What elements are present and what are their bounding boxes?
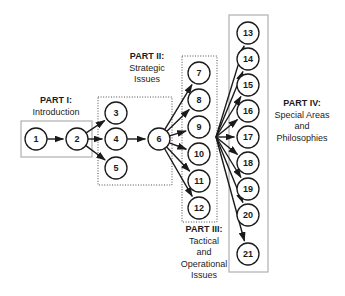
node-label-20: 20: [243, 210, 253, 220]
group-line-part4-1: and: [260, 121, 344, 133]
group-label-part4: PART IV: Special Areas and Philosophies: [260, 98, 344, 144]
node-label-4: 4: [113, 134, 118, 144]
node-label-11: 11: [194, 176, 204, 186]
node-label-9: 9: [196, 122, 201, 132]
node-5[interactable]: 5: [105, 157, 127, 179]
group-label-part1: PART I: Introduction: [14, 95, 98, 118]
group-line-part2-1: Issues: [108, 74, 186, 86]
node-label-5: 5: [113, 163, 118, 173]
node-6[interactable]: 6: [148, 128, 170, 150]
node-label-2: 2: [74, 134, 79, 144]
edge-2-to-3: [86, 120, 105, 132]
node-label-18: 18: [243, 158, 253, 168]
group-line-part2-0: Strategic: [108, 63, 186, 75]
node-9[interactable]: 9: [188, 116, 210, 138]
node-label-12: 12: [194, 203, 204, 213]
group-line-part4-2: Philosophies: [260, 133, 344, 145]
node-10[interactable]: 10: [188, 143, 210, 165]
node-20[interactable]: 20: [237, 204, 259, 226]
node-2[interactable]: 2: [66, 128, 88, 150]
node-14[interactable]: 14: [237, 48, 259, 70]
node-7[interactable]: 7: [188, 62, 210, 84]
group-header-part1: PART I:: [14, 95, 98, 107]
node-label-14: 14: [243, 54, 253, 64]
node-19[interactable]: 19: [237, 178, 259, 200]
node-16[interactable]: 16: [237, 100, 259, 122]
node-4[interactable]: 4: [105, 128, 127, 150]
edge-6-to-7: [165, 85, 192, 130]
node-label-19: 19: [243, 184, 253, 194]
node-label-3: 3: [113, 108, 118, 118]
node-label-15: 15: [243, 80, 253, 90]
group-header-part4: PART IV:: [260, 98, 344, 110]
node-8[interactable]: 8: [188, 89, 210, 111]
node-13[interactable]: 13: [237, 22, 259, 44]
node-12[interactable]: 12: [188, 197, 210, 219]
group-line-part3-1: and: [163, 247, 245, 259]
node-11[interactable]: 11: [188, 170, 210, 192]
group-header-part3: PART III:: [163, 224, 245, 236]
node-1[interactable]: 1: [25, 128, 47, 150]
node-3[interactable]: 3: [105, 102, 127, 124]
node-17[interactable]: 17: [237, 126, 259, 148]
group-header-part2: PART II:: [108, 51, 186, 63]
group-label-part3: PART III: Tactical and Operational Issue…: [163, 224, 245, 282]
edge-6-to-9: [170, 131, 187, 136]
group-line-part3-3: Issues: [163, 270, 245, 282]
diagram-canvas: 123456789101112131415161718192021 PART I…: [0, 0, 345, 296]
node-label-8: 8: [196, 95, 201, 105]
node-label-17: 17: [243, 132, 253, 142]
node-15[interactable]: 15: [237, 74, 259, 96]
group-line-part3-2: Operational: [163, 259, 245, 271]
group-line-part1-0: Introduction: [14, 107, 98, 119]
node-label-6: 6: [156, 134, 161, 144]
group-line-part4-0: Special Areas: [260, 110, 344, 122]
edge-2-to-5: [86, 146, 105, 160]
group-label-part2: PART II: Strategic Issues: [108, 51, 186, 86]
node-label-10: 10: [194, 149, 204, 159]
group-line-part3-0: Tactical: [163, 236, 245, 248]
node-label-7: 7: [196, 68, 201, 78]
node-label-16: 16: [243, 106, 253, 116]
node-label-1: 1: [33, 134, 38, 144]
node-18[interactable]: 18: [237, 152, 259, 174]
node-label-13: 13: [243, 28, 253, 38]
